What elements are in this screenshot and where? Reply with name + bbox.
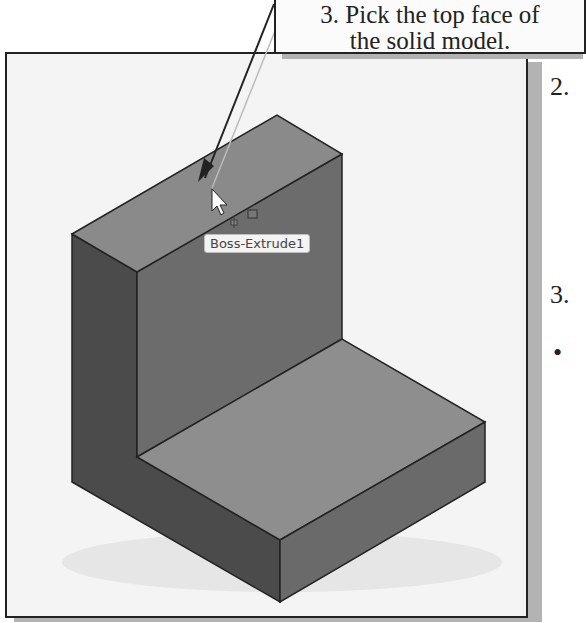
- margin-step-2: 2.: [550, 72, 570, 102]
- callout-shadow: [282, 54, 583, 59]
- graphics-viewport[interactable]: Boss-Extrude1: [5, 52, 528, 618]
- callout-line-2: the solid model.: [276, 28, 584, 54]
- instruction-callout: 3. Pick the top face of the solid model.: [274, 0, 586, 54]
- face-filter-icon: [248, 210, 257, 218]
- tooltip-feature-name: Boss-Extrude1: [204, 234, 310, 253]
- callout-line-1: 3. Pick the top face of: [276, 2, 584, 28]
- solid-model[interactable]: [7, 54, 528, 618]
- margin-bullet: •: [553, 338, 562, 368]
- margin-step-3: 3.: [550, 280, 570, 310]
